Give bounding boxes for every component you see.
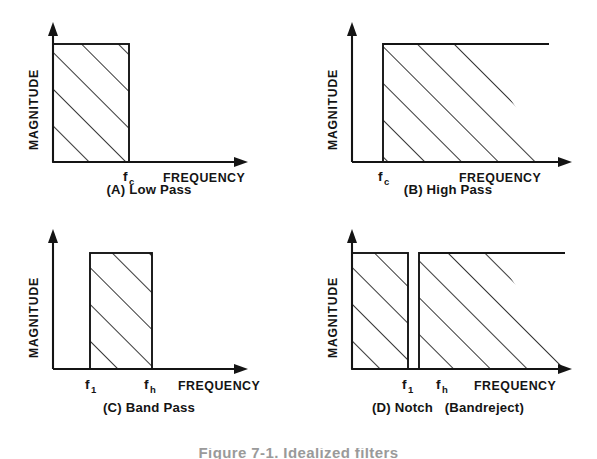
x-axis-arrow-icon — [234, 157, 248, 167]
x-axis-arrow-icon — [558, 157, 572, 167]
passband-region-band-pass — [90, 253, 152, 369]
x-axis-label: FREQUENCY — [474, 379, 557, 393]
x-axis-arrow-icon — [234, 364, 248, 374]
tick-label-f1: f — [85, 377, 90, 392]
y-axis-arrow-icon — [347, 229, 357, 243]
y-axis-label: MAGNITUDE — [326, 277, 340, 358]
panel-notch: MAGNITUDE FREQUENCY f 1 f h (D) Notch (B… — [299, 215, 597, 430]
figure-caption-container: Figure 7-1. Idealized filters — [0, 448, 597, 459]
tick-label-f1-subscript: 1 — [408, 384, 414, 395]
panel-caption-low-pass: (A) Low Pass — [0, 182, 298, 197]
panel-band-pass: MAGNITUDE FREQUENCY f 1 f h (C) Band Pas… — [0, 215, 298, 430]
y-axis-label: MAGNITUDE — [27, 277, 41, 358]
x-axis-label: FREQUENCY — [178, 379, 261, 393]
filter-response-figure: MAGNITUDE FREQUENCY f c (A) Low Pass — [0, 0, 597, 459]
y-axis-arrow-icon — [48, 22, 58, 36]
tick-label-f1-subscript: 1 — [91, 384, 97, 395]
figure-caption: Figure 7-1. Idealized filters — [0, 448, 597, 459]
passband-region-notch-lower — [352, 253, 408, 369]
passband-region-high-pass — [383, 44, 553, 162]
y-axis-arrow-icon — [347, 22, 357, 36]
panel-low-pass: MAGNITUDE FREQUENCY f c (A) Low Pass — [0, 0, 298, 215]
y-axis-label: MAGNITUDE — [27, 69, 41, 150]
panel-caption-band-pass: (C) Band Pass — [0, 400, 298, 415]
passband-region-low-pass — [53, 44, 129, 162]
panel-caption-notch: (D) Notch (Bandreject) — [299, 400, 597, 415]
tick-label-fh-subscript: h — [150, 384, 156, 395]
y-axis-label: MAGNITUDE — [326, 69, 340, 150]
tick-label-fh: f — [436, 377, 441, 392]
tick-label-f1: f — [402, 377, 407, 392]
tick-label-fh-subscript: h — [442, 384, 448, 395]
tick-label-fh: f — [144, 377, 149, 392]
panel-caption-high-pass: (B) High Pass — [299, 182, 597, 197]
passband-region-notch-upper — [419, 253, 571, 369]
y-axis-arrow-icon — [48, 229, 58, 243]
panel-high-pass: MAGNITUDE FREQUENCY f c (B) High Pass — [299, 0, 597, 215]
